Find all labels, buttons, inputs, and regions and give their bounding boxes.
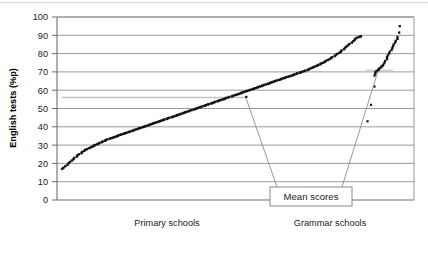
y-axis-title: English tests (%p) bbox=[8, 68, 18, 148]
data-point bbox=[396, 36, 398, 38]
data-point bbox=[64, 165, 66, 167]
data-point-outlier bbox=[366, 120, 368, 122]
data-point bbox=[185, 111, 187, 113]
data-point bbox=[296, 72, 298, 74]
data-point bbox=[276, 79, 278, 81]
y-tick-label: 100 bbox=[33, 12, 48, 22]
data-point bbox=[129, 130, 131, 132]
data-point bbox=[263, 84, 265, 86]
data-point bbox=[121, 133, 123, 135]
data-point bbox=[254, 87, 256, 89]
data-point bbox=[320, 62, 322, 64]
grammar-mean-marker bbox=[377, 69, 379, 71]
data-point bbox=[140, 127, 142, 129]
data-point bbox=[331, 56, 333, 58]
y-tick-label: 70 bbox=[38, 67, 48, 77]
data-point bbox=[86, 148, 88, 150]
data-point bbox=[78, 153, 80, 155]
y-tick-labels: 100 90 80 70 60 50 40 30 20 10 0 bbox=[33, 12, 48, 205]
data-point bbox=[73, 157, 75, 159]
data-point bbox=[384, 60, 386, 62]
mean-scores-annotation-label: Mean scores bbox=[284, 191, 339, 202]
data-point bbox=[125, 131, 127, 133]
data-point bbox=[317, 64, 319, 66]
y-tick-label: 40 bbox=[38, 122, 48, 132]
y-tick-label: 90 bbox=[38, 31, 48, 41]
y-tick-label: 30 bbox=[38, 141, 48, 151]
y-tick-label: 10 bbox=[38, 177, 48, 187]
scatter-chart-svg: 100 90 80 70 60 50 40 30 20 10 0 English… bbox=[0, 0, 428, 255]
chart-figure: 100 90 80 70 60 50 40 30 20 10 0 English… bbox=[0, 0, 428, 255]
data-point bbox=[94, 144, 96, 146]
data-point bbox=[249, 89, 251, 91]
top-divider-rule bbox=[0, 2, 428, 3]
data-point bbox=[201, 105, 203, 107]
data-point bbox=[293, 73, 295, 75]
data-point bbox=[340, 49, 342, 51]
data-point bbox=[360, 35, 362, 37]
y-tick-label: 80 bbox=[38, 49, 48, 59]
data-point bbox=[304, 69, 306, 71]
data-point bbox=[357, 36, 359, 38]
data-point bbox=[325, 60, 327, 62]
mean-scores-annotation[interactable]: Mean scores bbox=[270, 187, 352, 206]
x-category-label-grammar: Grammar schools bbox=[294, 218, 367, 228]
y-axis-ticks bbox=[52, 17, 57, 200]
data-point bbox=[246, 90, 248, 92]
data-point bbox=[285, 76, 287, 78]
data-point bbox=[207, 103, 209, 105]
y-tick-label: 60 bbox=[38, 86, 48, 96]
data-point bbox=[398, 31, 400, 33]
x-category-label-primary: Primary schools bbox=[134, 218, 200, 228]
data-point bbox=[163, 118, 165, 120]
data-point bbox=[168, 117, 170, 119]
data-point bbox=[214, 101, 216, 103]
data-point bbox=[98, 142, 100, 144]
data-point bbox=[354, 37, 356, 39]
data-point bbox=[101, 140, 103, 142]
data-point bbox=[190, 109, 192, 111]
y-tick-label: 20 bbox=[38, 159, 48, 169]
y-tick-label: 50 bbox=[38, 104, 48, 114]
primary-mean-marker bbox=[245, 96, 247, 98]
data-point bbox=[106, 138, 108, 140]
data-point bbox=[399, 25, 401, 27]
data-point bbox=[336, 53, 338, 55]
data-point bbox=[348, 43, 350, 45]
data-point bbox=[228, 96, 230, 98]
data-point bbox=[225, 97, 227, 99]
data-point-outlier bbox=[370, 104, 372, 106]
data-point bbox=[154, 122, 156, 124]
y-tick-label: 0 bbox=[43, 195, 48, 205]
